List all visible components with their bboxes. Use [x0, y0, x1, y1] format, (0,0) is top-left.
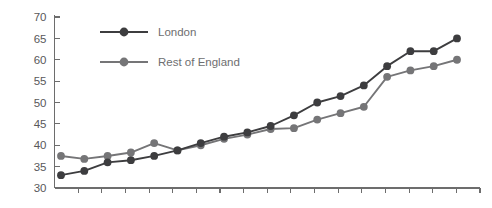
y-axis-tick-label: 60 — [34, 54, 47, 66]
data-point — [290, 111, 298, 119]
data-point — [453, 34, 461, 42]
data-point — [290, 124, 298, 132]
data-point — [57, 152, 65, 160]
data-point — [127, 149, 135, 157]
data-point — [407, 67, 415, 75]
legend-item-rest-of-england: Rest of England — [100, 56, 240, 68]
y-axis-tick-label: 50 — [34, 97, 47, 109]
data-point — [80, 167, 88, 175]
data-point — [360, 103, 368, 111]
y-axis-tick-label: 40 — [34, 139, 47, 151]
y-axis-tick-label: 45 — [34, 118, 47, 130]
data-point — [337, 109, 345, 117]
legend-item-london: London — [100, 26, 196, 38]
x-axis-ticks — [78, 188, 480, 193]
data-point — [313, 116, 321, 124]
legend-label: London — [158, 26, 196, 38]
chart-canvas: 303540455055606570LondonRest of England — [0, 0, 492, 208]
legend-marker — [120, 58, 129, 67]
data-point — [243, 129, 251, 137]
y-axis-tick-label: 70 — [34, 11, 47, 23]
data-point — [430, 62, 438, 70]
data-point — [383, 62, 391, 70]
series-line — [61, 60, 457, 159]
data-point — [174, 146, 182, 154]
y-axis-tick-label: 30 — [34, 182, 47, 194]
data-point — [267, 122, 275, 130]
data-point — [337, 92, 345, 100]
data-point — [104, 158, 112, 166]
data-point — [80, 155, 88, 163]
y-axis-tick-label: 65 — [34, 33, 47, 45]
series-london — [57, 34, 461, 179]
y-axis-tick-label: 35 — [34, 161, 47, 173]
series-rest-of-england — [57, 56, 461, 163]
line-chart: 303540455055606570LondonRest of England — [0, 0, 492, 208]
data-point — [197, 139, 205, 147]
data-point — [430, 47, 438, 55]
data-point — [150, 152, 158, 160]
legend: LondonRest of England — [100, 26, 240, 68]
data-point — [127, 156, 135, 164]
legend-label: Rest of England — [158, 56, 240, 68]
data-point — [453, 56, 461, 64]
data-point — [150, 139, 158, 147]
data-point — [360, 82, 368, 90]
data-point — [383, 73, 391, 81]
y-axis-ticks: 303540455055606570 — [34, 11, 60, 194]
data-point — [220, 133, 228, 141]
data-point — [313, 99, 321, 107]
y-axis-tick-label: 55 — [34, 75, 47, 87]
legend-marker — [120, 28, 129, 37]
data-point — [57, 171, 65, 179]
data-point — [407, 47, 415, 55]
